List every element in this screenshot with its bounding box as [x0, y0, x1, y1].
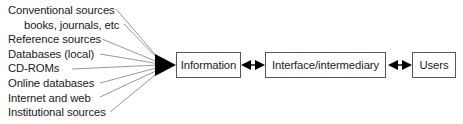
source-item-databases-local: Databases (local) — [0, 47, 150, 62]
connector-information-interface — [241, 60, 265, 70]
node-box-information: Information — [176, 52, 241, 78]
source-item-internet-and-web: Internet and web — [0, 91, 150, 106]
source-item-reference-sources: Reference sources — [0, 32, 150, 47]
arrowhead-right-icon — [402, 60, 412, 70]
source-list: Conventional sources books, journals, et… — [0, 0, 150, 120]
node-box-interface: Interface/intermediary — [265, 52, 386, 78]
diagram-canvas: Conventional sources books, journals, et… — [0, 0, 463, 124]
source-item-conventional-sources: Conventional sources — [0, 3, 150, 18]
source-item-books-journals: books, journals, etc — [0, 18, 150, 33]
source-item-cd-roms: CD-ROMs — [0, 61, 150, 76]
converging-arrowhead-icon — [155, 54, 176, 76]
arrowhead-right-icon — [255, 60, 265, 70]
arrowhead-left-icon — [241, 60, 251, 70]
connector-interface-users — [388, 60, 412, 70]
source-item-online-databases: Online databases — [0, 76, 150, 91]
source-item-institutional-sources: Institutional sources — [0, 105, 150, 120]
arrowhead-left-icon — [388, 60, 398, 70]
node-box-users: Users — [412, 52, 456, 78]
